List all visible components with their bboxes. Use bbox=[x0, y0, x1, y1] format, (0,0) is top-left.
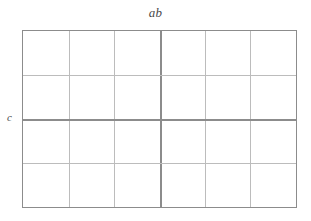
diagram-canvas: ab c bbox=[0, 0, 311, 221]
left-axis-label: c bbox=[7, 112, 12, 123]
grid-row-divider-center bbox=[23, 119, 296, 120]
grid-row-divider-1 bbox=[23, 75, 296, 76]
grid-row-divider-3 bbox=[23, 163, 296, 164]
top-axis-label: ab bbox=[0, 6, 311, 19]
design-grid bbox=[22, 30, 297, 208]
